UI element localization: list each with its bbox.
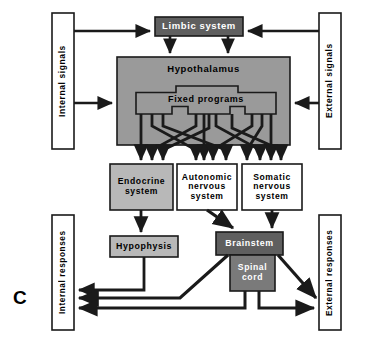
figure-panel-c: Internal signals External signals Limbic… <box>0 0 388 347</box>
node-brainstem <box>216 232 283 255</box>
node-internal-responses <box>52 215 74 330</box>
node-internal-signals <box>52 13 74 149</box>
arrow-spinal-cord-to-external-responses <box>259 291 314 308</box>
node-limbic-system <box>155 17 243 36</box>
node-external-signals <box>319 13 341 149</box>
arrow-autonomic-to-brainstem <box>207 210 233 228</box>
panel-letter-c: C <box>13 287 27 309</box>
node-somatic-nervous-system <box>242 164 302 210</box>
arrow-hypophysis-to-internal-responses <box>79 257 144 290</box>
node-hypophysis <box>110 236 178 257</box>
node-autonomic-nervous-system <box>177 164 237 210</box>
diagram-canvas <box>0 0 388 347</box>
node-spinal-cord <box>230 255 275 291</box>
node-endocrine-system <box>110 164 173 210</box>
node-external-responses <box>319 215 341 330</box>
arrow-brainstem-to-external-responses <box>278 255 316 298</box>
arrow-brainstem-to-internal-responses <box>79 255 228 298</box>
